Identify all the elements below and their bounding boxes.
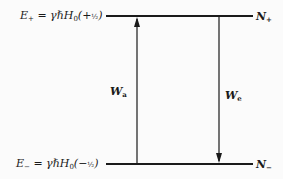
upper-population-label: N+ — [256, 11, 272, 23]
energy-expression: = γℏH — [34, 9, 73, 22]
energy-level-diagram: E+ = γℏH0(+½) E− = γℏH0(−½) N+ N− Wa We — [0, 0, 283, 179]
rate-subscript: e — [237, 94, 241, 103]
energy-expression: = γℏH — [30, 157, 69, 170]
paren-open: (+ — [78, 9, 92, 22]
population-subscript: + — [266, 15, 272, 24]
energy-symbol: E — [16, 157, 24, 170]
population-subscript: − — [266, 163, 272, 172]
absorption-arrow-up-icon — [134, 17, 140, 163]
emission-rate-label: We — [225, 90, 242, 102]
rate-subscript: a — [122, 90, 127, 99]
paren-close: ) — [98, 9, 102, 22]
lower-population-label: N− — [256, 159, 272, 171]
population-symbol: N — [256, 158, 266, 171]
paren-open: (− — [74, 157, 88, 170]
rate-symbol: W — [225, 89, 237, 102]
population-symbol: N — [256, 10, 266, 23]
absorption-rate-label: Wa — [110, 86, 127, 98]
upper-level-energy-label: E+ = γℏH0(+½) — [20, 10, 102, 23]
emission-arrow-down-icon — [216, 17, 222, 163]
energy-symbol: E — [20, 9, 28, 22]
rate-symbol: W — [110, 85, 122, 98]
lower-level-energy-label: E− = γℏH0(−½) — [16, 158, 98, 171]
paren-close: ) — [94, 157, 98, 170]
